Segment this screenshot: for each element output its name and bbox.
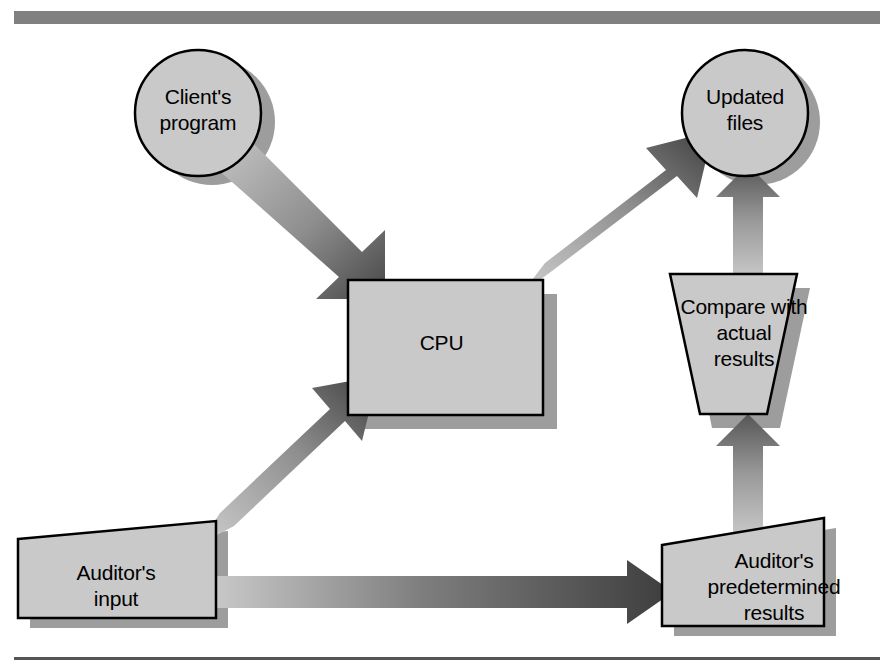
node-auditors-predetermined-results[interactable] <box>662 518 824 626</box>
top-rule <box>14 11 880 24</box>
diagram-canvas: Client's program Updated files CPU Compa… <box>0 0 891 670</box>
edge-cpu-to-updated <box>522 131 713 293</box>
flowchart-graphic <box>0 0 891 670</box>
bottom-rule <box>14 657 880 660</box>
edge-client-to-cpu <box>215 137 385 299</box>
node-updated-files[interactable] <box>682 50 808 176</box>
node-auditors-input[interactable] <box>18 521 216 618</box>
node-client-program[interactable] <box>135 50 261 176</box>
edge-compare-to-updated <box>716 165 780 290</box>
node-cpu[interactable] <box>348 280 543 415</box>
edge-input-to-predet <box>216 560 673 624</box>
